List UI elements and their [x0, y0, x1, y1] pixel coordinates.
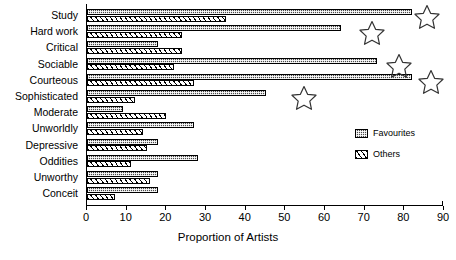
x-axis-tick-label: 0: [83, 211, 89, 223]
category-label: Conceit: [42, 188, 78, 199]
x-axis-tick: [86, 206, 87, 210]
x-axis-tick: [165, 206, 166, 210]
bar-others: [87, 48, 182, 54]
bar-others: [87, 16, 226, 22]
category-label: Moderate: [34, 107, 78, 118]
category-axis-labels: StudyHard workCriticalSociableCourteousS…: [0, 4, 82, 204]
bar-favourites: [87, 187, 158, 193]
legend-label-favourites: Favourites: [373, 128, 415, 138]
x-axis-title: Proportion of Artists: [0, 231, 456, 243]
bar-others: [87, 64, 174, 70]
x-axis-tick-label: 20: [159, 211, 171, 223]
bar-favourites: [87, 58, 377, 64]
bar-others: [87, 80, 194, 86]
category-label: Sociable: [38, 59, 78, 70]
legend-swatch-favourites: [355, 129, 368, 138]
bar-others: [87, 32, 182, 38]
x-axis-tick-label: 50: [278, 211, 290, 223]
bar-others: [87, 161, 131, 167]
star-icon: [414, 4, 440, 33]
x-axis-tick: [126, 206, 127, 210]
category-label: Courteous: [30, 75, 78, 86]
legend-label-others: Others: [373, 149, 400, 159]
x-axis-tick-label: 60: [318, 211, 330, 223]
category-label: Critical: [46, 42, 78, 53]
bar-others: [87, 178, 150, 184]
x-axis-tick-label: 10: [120, 211, 132, 223]
bar-favourites: [87, 74, 412, 80]
bar-favourites: [87, 9, 412, 15]
x-axis-tick: [284, 206, 285, 210]
x-axis-tick-label: 70: [358, 211, 370, 223]
chart-legend: Favourites Others: [355, 126, 415, 168]
bar-favourites: [87, 106, 123, 112]
category-label: Oddities: [39, 156, 78, 167]
bar-favourites: [87, 122, 194, 128]
bar-favourites: [87, 25, 341, 31]
x-axis-tick: [403, 206, 404, 210]
x-axis-tick: [324, 206, 325, 210]
bar-favourites: [87, 171, 158, 177]
bar-chart: StudyHard workCriticalSociableCourteousS…: [0, 0, 456, 260]
x-axis-tick: [364, 206, 365, 210]
x-axis-tick-label: 80: [397, 211, 409, 223]
bar-favourites: [87, 90, 266, 96]
star-icon: [291, 85, 317, 114]
bar-others: [87, 145, 147, 151]
legend-item-favourites: Favourites: [355, 126, 415, 140]
bar-others: [87, 194, 115, 200]
x-axis-tick: [245, 206, 246, 210]
star-icon: [418, 69, 444, 98]
bar-favourites: [87, 41, 158, 47]
axis-right-tick: [442, 201, 443, 205]
star-icon: [359, 20, 385, 49]
x-axis-tick-label: 40: [239, 211, 251, 223]
bar-favourites: [87, 155, 198, 161]
x-axis-tick-label: 90: [437, 211, 449, 223]
category-label: Unworthy: [34, 172, 78, 183]
bar-others: [87, 97, 135, 103]
star-icon: [386, 53, 412, 82]
category-label: Depressive: [25, 140, 78, 151]
x-axis-tick: [205, 206, 206, 210]
category-label: Study: [51, 10, 78, 21]
legend-swatch-others: [355, 150, 368, 159]
category-label: Sophisticated: [15, 91, 78, 102]
x-axis-tick: [443, 206, 444, 210]
plot-area: [86, 4, 443, 206]
bar-others: [87, 129, 143, 135]
category-label: Hard work: [30, 26, 78, 37]
bar-favourites: [87, 139, 158, 145]
x-axis-tick-label: 30: [199, 211, 211, 223]
category-label: Unworldly: [32, 123, 78, 134]
legend-item-others: Others: [355, 147, 415, 161]
bar-others: [87, 113, 166, 119]
